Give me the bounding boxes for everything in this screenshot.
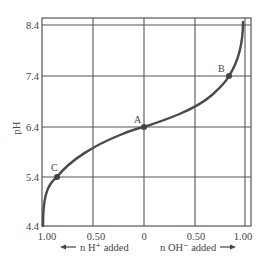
- svg-text:0: 0: [141, 231, 146, 242]
- y-axis-ticks: 8.4 7.4 6.4 5.4 4.4: [26, 20, 40, 232]
- point-c-label: C: [51, 162, 58, 173]
- svg-text:0.50: 0.50: [187, 231, 205, 242]
- point-a-label: A: [134, 114, 142, 125]
- svg-text:6.4: 6.4: [26, 122, 40, 133]
- x-axis-ticks: 1.00 0.50 0 0.50 1.00: [38, 231, 252, 242]
- svg-text:8.4: 8.4: [26, 20, 40, 31]
- x-axis-label-left: n H⁺ added: [60, 242, 129, 253]
- point-b-label: B: [218, 63, 225, 74]
- titration-chart: A B C 8.4 7.4 6.4 5.4 4.4 pH 1.00 0.50 0…: [0, 0, 266, 265]
- vertical-gridlines: [93, 18, 245, 226]
- svg-text:1.00: 1.00: [234, 231, 252, 242]
- point-b-marker: [226, 73, 232, 79]
- point-c-marker: [54, 174, 60, 180]
- svg-text:1.00: 1.00: [38, 231, 56, 242]
- svg-text:n OH⁻ added: n OH⁻ added: [160, 242, 217, 253]
- x-axis-label-right: n OH⁻ added: [160, 242, 236, 253]
- svg-text:n H⁺ added: n H⁺ added: [80, 242, 129, 253]
- horizontal-gridlines: [42, 25, 251, 177]
- svg-text:7.4: 7.4: [26, 71, 40, 82]
- svg-text:0.50: 0.50: [87, 231, 105, 242]
- titration-curve: [43, 22, 243, 226]
- point-a-marker: [141, 124, 147, 130]
- plot-frame: [42, 18, 251, 226]
- svg-text:5.4: 5.4: [26, 172, 40, 183]
- y-axis-label: pH: [11, 121, 22, 134]
